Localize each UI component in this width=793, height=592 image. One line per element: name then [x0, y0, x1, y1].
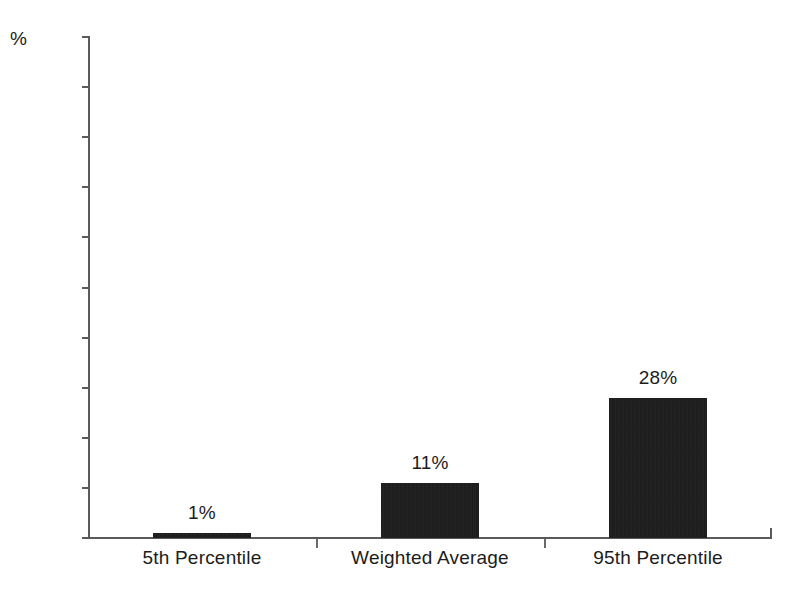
x-axis-category-label: 95th Percentile [544, 547, 772, 569]
bar-value-label: 11% [341, 452, 519, 474]
bar [153, 533, 251, 538]
y-axis-unit-label: % [10, 28, 27, 50]
bar [609, 398, 707, 538]
y-axis-tick-mark [82, 36, 90, 38]
y-axis-tick-mark [82, 236, 90, 238]
y-axis-tick-mark [82, 136, 90, 138]
y-axis-tick-mark [82, 487, 90, 489]
y-axis-tick-mark [82, 287, 90, 289]
bar-value-label: 1% [113, 502, 291, 524]
y-axis-tick-mark [82, 437, 90, 439]
y-axis-tick-mark [82, 337, 90, 339]
x-axis-category-label: Weighted Average [316, 547, 544, 569]
y-axis-tick-mark [82, 387, 90, 389]
y-axis-tick-mark [82, 186, 90, 188]
y-axis-tick-mark [82, 86, 90, 88]
x-axis-category-label: 5th Percentile [88, 547, 316, 569]
bar [381, 483, 479, 538]
bar-value-label: 28% [569, 367, 747, 389]
bar-chart: % 1009080706050403020100 1%11%28% 5th Pe… [0, 0, 793, 592]
x-axis-end-cap [770, 528, 772, 539]
